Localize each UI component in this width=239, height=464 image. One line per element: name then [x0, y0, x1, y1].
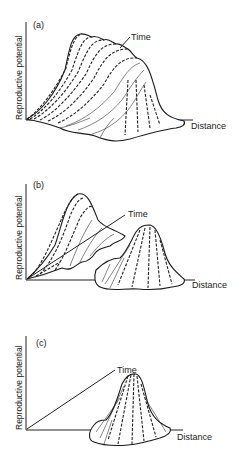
- figure-canvas: (a) Reproductive potential Time Distance…: [0, 0, 239, 464]
- panel-c-y-axis-label: Reproductive potential: [14, 345, 24, 430]
- panel-b-distance-label: Distance: [192, 280, 227, 290]
- panel-a-surface: [27, 34, 185, 141]
- panel-b-y-axis-label: Reproductive potential: [14, 195, 24, 280]
- panel-c-tag: (c): [36, 338, 47, 348]
- panel-b: (b) Reproductive potential Time Distance: [14, 180, 227, 290]
- panel-a-time-label: Time: [131, 32, 151, 42]
- panel-c: (c) Reproductive potential Time Distance: [14, 336, 212, 446]
- panel-b-time-label: Time: [128, 209, 148, 219]
- panel-a-tag: (a): [33, 20, 44, 30]
- panel-a-distance-label: Distance: [191, 121, 226, 131]
- panel-a: (a) Reproductive potential Time Distance: [14, 20, 226, 141]
- panel-a-time-axis: [120, 37, 130, 48]
- panel-b-tag: (b): [33, 180, 44, 190]
- panel-c-distance-label: Distance: [177, 432, 212, 442]
- panel-a-y-axis-label: Reproductive potential: [14, 35, 24, 120]
